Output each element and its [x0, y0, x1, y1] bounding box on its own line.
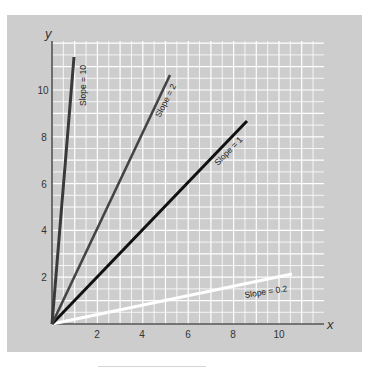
line-chart: y x 2 4 6 8 10 2 4 6 8 10 Slope = 10 Slo…: [0, 0, 381, 368]
y-tick-label: 6: [41, 179, 47, 190]
y-tick-label: 10: [37, 85, 49, 96]
x-tick-label: 6: [185, 329, 191, 340]
y-tick-label: 2: [41, 272, 47, 283]
x-tick-label: 4: [139, 329, 145, 340]
y-tick-label: 8: [41, 132, 47, 143]
divider: [98, 366, 206, 367]
slope-1-line: [52, 121, 247, 324]
slope-0.2-label: Slope = 0.2: [244, 283, 289, 300]
x-tick-label: 8: [230, 329, 236, 340]
y-axis-label: y: [44, 26, 53, 41]
x-tick-label: 10: [273, 329, 285, 340]
x-tick-label: 2: [94, 329, 100, 340]
y-tick-label: 4: [41, 225, 47, 236]
x-axis-label: x: [326, 317, 334, 332]
slope-10-label: Slope = 10: [78, 65, 88, 106]
